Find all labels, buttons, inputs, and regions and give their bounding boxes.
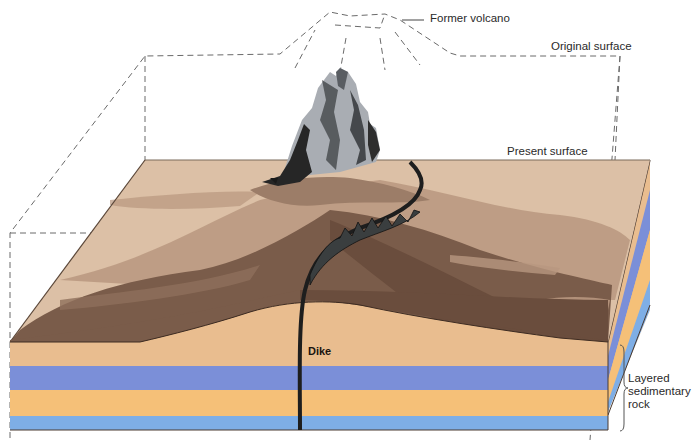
layered-rock-label-line2: sedimentary xyxy=(628,385,691,398)
dike-label: Dike xyxy=(308,345,331,358)
layered-rock-label-line1: Layered xyxy=(628,372,670,385)
original-surface-label: Original surface xyxy=(551,40,632,53)
present-surface-label: Present surface xyxy=(507,145,588,158)
layered-rock-label-line3: rock xyxy=(628,398,650,411)
former-volcano-label: Former volcano xyxy=(430,12,510,25)
volcanic-neck-block-diagram xyxy=(0,0,696,442)
